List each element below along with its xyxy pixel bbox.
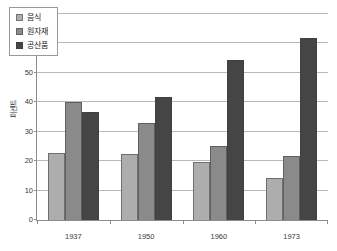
plot-area: 010203040506070 1937195019601973: [36, 14, 328, 221]
bar-1973-원자재[interactable]: [283, 156, 300, 220]
y-tick-label-40: 40: [7, 97, 33, 106]
bar-1960-음식[interactable]: [193, 162, 210, 220]
bar-1950-공산품[interactable]: [155, 97, 172, 220]
y-tick-label-20: 20: [7, 156, 33, 165]
x-tick-mark-1960: [183, 220, 184, 224]
legend-label-2: 공산품: [27, 41, 48, 50]
bar-1973-공산품[interactable]: [300, 38, 317, 220]
legend-swatch-icon-0: [16, 14, 23, 21]
y-tick-label-0: 0: [7, 215, 33, 224]
legend-swatch-icon-1: [16, 28, 23, 35]
bar-group-1950: 1950: [110, 14, 183, 220]
bar-1960-공산품[interactable]: [227, 60, 244, 220]
bar-group-1973: 1973: [255, 14, 328, 220]
legend-label-0: 음식: [27, 13, 41, 22]
legend-item-0: 음식: [16, 13, 48, 22]
x-tick-label-1973: 1973: [255, 232, 328, 241]
bar-1973-음식[interactable]: [266, 178, 283, 220]
legend-item-2: 공산품: [16, 41, 48, 50]
bar-1950-음식[interactable]: [121, 154, 138, 220]
y-axis-title: 퍼센트: [8, 86, 18, 132]
bar-1937-음식[interactable]: [48, 153, 65, 220]
bar-chart: 퍼센트 010203040506070 1937195019601973 음식 …: [0, 0, 337, 251]
x-tick-mark-end: [327, 220, 328, 224]
y-tick-label-50: 50: [7, 67, 33, 76]
bar-1937-원자재[interactable]: [65, 102, 82, 220]
bar-groups: 1937195019601973: [37, 14, 328, 220]
legend-swatch-icon-2: [16, 42, 23, 49]
y-tick-label-30: 30: [7, 126, 33, 135]
x-tick-mark-1973: [255, 220, 256, 224]
y-tick-label-10: 10: [7, 185, 33, 194]
bar-1950-원자재[interactable]: [138, 123, 155, 220]
x-tick-label-1960: 1960: [183, 232, 256, 241]
legend-item-1: 원자재: [16, 27, 48, 36]
legend: 음식 원자재 공산품: [9, 7, 58, 56]
bar-group-1960: 1960: [183, 14, 256, 220]
x-tick-label-1950: 1950: [110, 232, 183, 241]
legend-label-1: 원자재: [27, 27, 48, 36]
x-tick-label-1937: 1937: [37, 232, 110, 241]
x-tick-mark-1950: [110, 220, 111, 224]
cropped-top-text: [178, 0, 328, 5]
bar-1960-원자재[interactable]: [210, 146, 227, 220]
x-tick-mark-1937: [37, 220, 38, 224]
bar-1937-공산품[interactable]: [82, 112, 99, 220]
